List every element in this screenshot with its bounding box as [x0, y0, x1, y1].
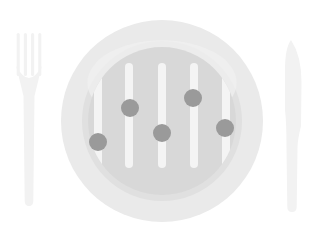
illustration-canvas — [0, 0, 329, 237]
fork-tine-2 — [24, 33, 27, 76]
food-topping-5 — [216, 119, 234, 137]
food-stripe-3 — [158, 63, 166, 168]
place-setting-illustration: Dinner place setting Flat pale-gray illu… — [0, 0, 329, 237]
food-topping-4 — [184, 89, 202, 107]
fork-tine-3 — [31, 33, 34, 76]
food-topping-1 — [89, 133, 107, 151]
food-stripe-4 — [190, 63, 198, 168]
food-topping-2 — [121, 99, 139, 117]
food-graphic — [88, 47, 236, 195]
food-topping-3 — [153, 124, 171, 142]
